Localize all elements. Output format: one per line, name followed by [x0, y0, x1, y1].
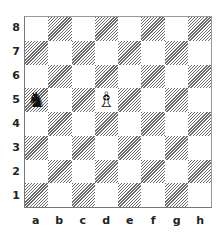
square-f1[interactable] [141, 183, 164, 207]
square-b6[interactable] [48, 65, 71, 89]
black-knight-icon[interactable]: ♞ [27, 90, 46, 111]
square-a6[interactable] [25, 65, 48, 89]
square-g8[interactable] [165, 17, 188, 41]
square-b1[interactable] [48, 183, 71, 207]
rank-label-3: 3 [9, 141, 23, 154]
square-e6[interactable] [118, 65, 141, 89]
square-f6[interactable] [141, 65, 164, 89]
square-b7[interactable] [48, 41, 71, 65]
square-d6[interactable] [95, 65, 118, 89]
file-label-h: h [189, 214, 213, 227]
file-label-c: c [71, 214, 95, 227]
square-d3[interactable] [95, 136, 118, 160]
square-g1[interactable] [165, 183, 188, 207]
chess-board: ♞♗ [24, 16, 212, 208]
square-g6[interactable] [165, 65, 188, 89]
square-d8[interactable] [95, 17, 118, 41]
square-e7[interactable] [118, 41, 141, 65]
square-d5[interactable]: ♗ [95, 88, 118, 112]
rank-label-6: 6 [9, 69, 23, 82]
square-d2[interactable] [95, 160, 118, 184]
square-e8[interactable] [118, 17, 141, 41]
square-a5[interactable]: ♞ [25, 88, 48, 112]
square-c8[interactable] [72, 17, 95, 41]
rank-label-2: 2 [9, 165, 23, 178]
rank-label-4: 4 [9, 117, 23, 130]
square-a3[interactable] [25, 136, 48, 160]
square-f7[interactable] [141, 41, 164, 65]
file-label-f: f [142, 214, 166, 227]
square-g3[interactable] [165, 136, 188, 160]
square-h5[interactable] [188, 88, 211, 112]
square-b8[interactable] [48, 17, 71, 41]
square-f3[interactable] [141, 136, 164, 160]
square-e2[interactable] [118, 160, 141, 184]
square-c3[interactable] [72, 136, 95, 160]
square-a8[interactable] [25, 17, 48, 41]
square-g5[interactable] [165, 88, 188, 112]
square-h6[interactable] [188, 65, 211, 89]
square-f4[interactable] [141, 112, 164, 136]
rank-label-5: 5 [9, 93, 23, 106]
square-f8[interactable] [141, 17, 164, 41]
square-f5[interactable] [141, 88, 164, 112]
square-h2[interactable] [188, 160, 211, 184]
square-h1[interactable] [188, 183, 211, 207]
square-b3[interactable] [48, 136, 71, 160]
rank-label-1: 1 [9, 189, 23, 202]
white-bishop-icon[interactable]: ♗ [97, 90, 116, 111]
square-a4[interactable] [25, 112, 48, 136]
square-c7[interactable] [72, 41, 95, 65]
square-g7[interactable] [165, 41, 188, 65]
square-a1[interactable] [25, 183, 48, 207]
square-a7[interactable] [25, 41, 48, 65]
square-h7[interactable] [188, 41, 211, 65]
square-e4[interactable] [118, 112, 141, 136]
file-label-d: d [95, 214, 119, 227]
file-label-g: g [165, 214, 189, 227]
square-b2[interactable] [48, 160, 71, 184]
square-a2[interactable] [25, 160, 48, 184]
square-g2[interactable] [165, 160, 188, 184]
square-c5[interactable] [72, 88, 95, 112]
square-d4[interactable] [95, 112, 118, 136]
square-h3[interactable] [188, 136, 211, 160]
square-c2[interactable] [72, 160, 95, 184]
square-e1[interactable] [118, 183, 141, 207]
square-e3[interactable] [118, 136, 141, 160]
square-b4[interactable] [48, 112, 71, 136]
square-h4[interactable] [188, 112, 211, 136]
square-f2[interactable] [141, 160, 164, 184]
rank-label-8: 8 [9, 21, 23, 34]
file-label-b: b [48, 214, 72, 227]
square-d7[interactable] [95, 41, 118, 65]
rank-label-7: 7 [9, 45, 23, 58]
square-c4[interactable] [72, 112, 95, 136]
file-label-a: a [24, 214, 48, 227]
square-b5[interactable] [48, 88, 71, 112]
square-e5[interactable] [118, 88, 141, 112]
square-d1[interactable] [95, 183, 118, 207]
square-g4[interactable] [165, 112, 188, 136]
square-c1[interactable] [72, 183, 95, 207]
square-c6[interactable] [72, 65, 95, 89]
file-label-e: e [118, 214, 142, 227]
square-h8[interactable] [188, 17, 211, 41]
